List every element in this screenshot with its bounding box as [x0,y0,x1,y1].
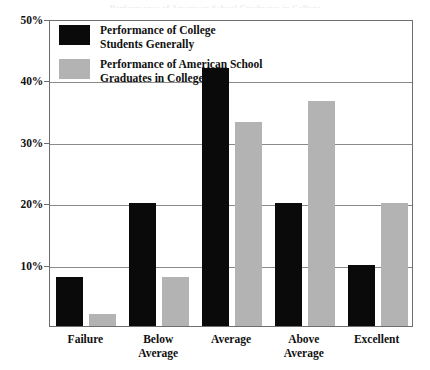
legend-label: Performance of American School Graduates… [100,58,263,85]
cut-off-caption-sliver: Performance of American School Graduates… [0,0,430,8]
y-tick-label: 50% [21,14,43,26]
legend-label-line1: Performance of American School [100,58,263,72]
bar-black-failure [56,277,83,326]
x-axis-label-line1: Failure [49,333,122,347]
x-axis-label: BelowAverage [122,333,195,360]
x-axis: FailureBelowAverageAverageAboveAverageEx… [49,329,413,370]
bar-gray-below-average [162,277,189,326]
x-axis-label: Average [195,333,268,347]
bar-gray-average [235,122,262,327]
bar-black-below-average [129,203,156,326]
x-axis-label-line1: Above [267,333,340,347]
y-tick-label: 10% [21,260,43,272]
bar-black-average [202,68,229,326]
bar-gray-above-average [308,101,335,326]
x-axis-label: Failure [49,333,122,347]
legend-label-line2: Students Generally [100,38,216,52]
bar-black-excellent [348,265,375,326]
x-axis-label-line1: Below [122,333,195,347]
y-tick-label: 20% [21,198,43,210]
bar-gray-failure [89,314,116,326]
x-axis-label: Excellent [340,333,413,347]
gridline [50,205,412,206]
bar-black-above-average [275,203,302,326]
x-axis-label: AboveAverage [267,333,340,360]
legend-item: Performance of College Students Generall… [59,24,309,51]
legend-swatch-gray [59,59,90,79]
legend-label-line1: Performance of College [100,24,216,38]
x-axis-label-line2: Average [267,347,340,361]
x-axis-label-line2: Average [122,347,195,361]
gridline [50,144,412,145]
legend-item: Performance of American School Graduates… [59,58,309,85]
legend-label: Performance of College Students Generall… [100,24,216,51]
legend-swatch-black [59,25,90,45]
y-tick-label: 30% [21,137,43,149]
x-axis-label-line1: Excellent [340,333,413,347]
legend-label-line2: Graduates in College [100,72,263,86]
y-tick-label: 40% [21,75,43,87]
y-axis: 10%20%30%40%50% [0,0,49,370]
bar-gray-excellent [381,203,408,326]
x-axis-label-line1: Average [195,333,268,347]
chart-legend: Performance of College Students Generall… [59,24,309,92]
